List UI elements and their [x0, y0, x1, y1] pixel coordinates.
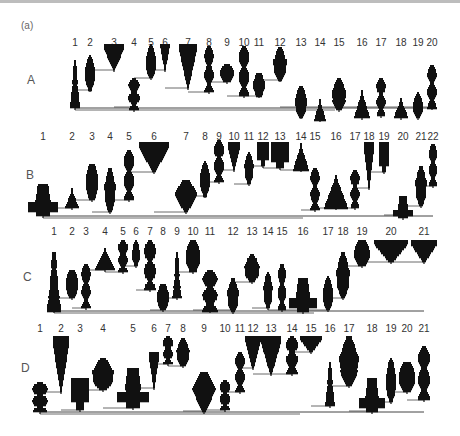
kite-glyph — [227, 278, 239, 314]
kite-glyph — [117, 368, 149, 410]
kite-glyph — [66, 270, 78, 300]
row-c — [47, 240, 437, 314]
kite-glyph — [350, 170, 360, 210]
kite-glyph — [394, 98, 408, 120]
kite-glyph — [364, 142, 374, 190]
kite-glyph — [28, 184, 58, 218]
kite-glyph — [261, 336, 281, 376]
kite-glyph — [70, 60, 80, 110]
kite-glyph — [359, 378, 385, 414]
kite-glyph — [427, 65, 437, 110]
row-d — [32, 336, 430, 414]
kite-glyph — [263, 272, 273, 310]
kite-glyph — [310, 168, 320, 212]
kite-glyph — [386, 358, 396, 404]
kite-glyph — [47, 252, 61, 313]
kite-glyph — [53, 336, 69, 394]
kite-glyph — [220, 64, 234, 84]
kite-glyph — [228, 142, 240, 172]
kite-glyph — [179, 44, 197, 90]
kite-glyph — [411, 240, 437, 264]
kite-glyph — [374, 240, 408, 264]
kite-glyph — [245, 336, 261, 370]
kite-glyph — [295, 86, 307, 119]
kite-glyph — [124, 150, 134, 202]
kite-glyph — [200, 161, 210, 198]
kite-glyph — [186, 240, 200, 274]
kite-glyph — [354, 240, 370, 268]
kite-glyph — [81, 264, 91, 310]
kite-glyph — [324, 175, 348, 210]
kite-diagram-figure — [0, 0, 460, 436]
kite-glyph — [104, 168, 116, 214]
kite-glyph — [160, 44, 170, 72]
kite-glyph — [415, 166, 427, 208]
kite-glyph — [202, 270, 218, 313]
kite-glyph — [92, 358, 114, 392]
kite-glyph — [175, 180, 197, 214]
kite-glyph — [157, 284, 169, 312]
kite-glyph — [239, 46, 249, 98]
kite-glyph — [314, 99, 326, 122]
kite-glyph — [95, 248, 115, 272]
kite-glyph — [273, 47, 287, 82]
kite-glyph — [85, 55, 95, 92]
kite-glyph — [192, 372, 216, 414]
kite-glyph — [139, 142, 169, 174]
kite-glyph — [293, 143, 309, 172]
kite-glyph — [289, 278, 317, 314]
kite-glyph — [86, 164, 98, 202]
kite-glyph — [244, 254, 260, 284]
kite-glyph — [172, 252, 182, 300]
kite-glyph — [429, 144, 437, 188]
kite-glyph — [354, 90, 370, 120]
kite-glyph — [204, 46, 214, 94]
kite-glyph — [418, 346, 430, 402]
kite-glyph — [163, 336, 173, 366]
row-b — [28, 140, 437, 220]
kite-glyph — [379, 142, 389, 174]
kite-glyph — [339, 336, 359, 388]
kite-glyph — [300, 336, 322, 354]
kite-glyph — [323, 276, 333, 312]
kite-glyph — [336, 252, 350, 300]
kite-glyph — [104, 44, 124, 72]
kite-glyph — [235, 352, 245, 394]
row-a — [70, 44, 437, 122]
kite-glyph — [286, 336, 298, 376]
kite-glyph — [32, 382, 48, 414]
kite-glyph — [257, 142, 269, 168]
kite-glyph — [176, 338, 190, 368]
kite-glyph — [214, 140, 224, 184]
kite-glyph — [146, 44, 156, 80]
kite-glyph — [253, 73, 265, 98]
kite-glyph — [413, 92, 423, 120]
kite-glyph — [71, 378, 89, 412]
kite-glyph — [278, 264, 286, 312]
kite-glyph — [149, 352, 159, 390]
kite-glyph — [399, 362, 415, 394]
kite-glyph — [118, 240, 128, 274]
kite-glyph — [132, 240, 140, 268]
kite-glyph — [220, 380, 230, 412]
kite-glyph — [65, 188, 79, 210]
kite-glyph — [325, 362, 335, 408]
kite-glyph — [376, 78, 386, 118]
kite-glyph — [244, 152, 254, 186]
kite-glyph — [144, 240, 156, 292]
kite-glyph — [271, 142, 289, 170]
